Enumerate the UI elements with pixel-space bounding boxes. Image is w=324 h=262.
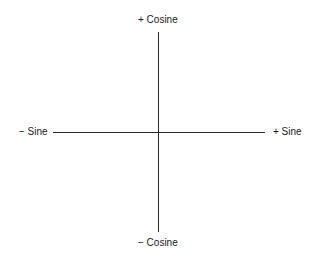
label-minus-sine: − Sine xyxy=(19,126,48,138)
label-minus-cosine: − Cosine xyxy=(138,237,178,249)
label-plus-cosine: + Cosine xyxy=(138,14,178,26)
diagram-canvas: + Cosine − Cosine − Sine + Sine xyxy=(0,0,324,262)
horizontal-axis-line xyxy=(53,132,265,133)
label-plus-sine: + Sine xyxy=(273,126,302,138)
